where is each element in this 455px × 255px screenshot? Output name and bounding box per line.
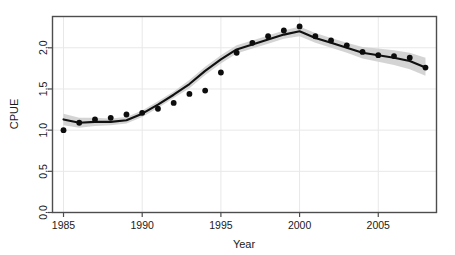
data-point: [155, 106, 161, 112]
data-point: [281, 28, 287, 34]
y-tick-label: 0,0: [37, 205, 49, 220]
figure-container: 19851990199520002005 0,00,51,01,52,0 Yea…: [0, 0, 455, 255]
cpue-time-series-chart: 19851990199520002005 0,00,51,01,52,0 Yea…: [0, 0, 455, 255]
data-point: [265, 33, 271, 39]
y-tick-label: 2,0: [37, 40, 49, 55]
data-point: [344, 42, 350, 48]
data-point: [249, 40, 255, 46]
data-point: [202, 88, 208, 94]
data-point: [407, 55, 413, 61]
chart-background: [0, 0, 455, 255]
x-tick-label: 1990: [131, 219, 155, 231]
data-point: [124, 112, 130, 118]
data-point: [139, 110, 145, 116]
data-point: [234, 50, 240, 56]
data-point: [297, 23, 303, 29]
data-point: [312, 33, 318, 39]
y-tick-label: 1,5: [37, 82, 49, 97]
data-point: [375, 52, 381, 58]
y-tick-label: 0,5: [37, 164, 49, 179]
data-point: [92, 117, 98, 123]
data-point: [423, 65, 429, 71]
y-axis-title: CPUE: [8, 99, 20, 130]
x-tick-label: 2005: [367, 219, 391, 231]
x-tick-label: 1995: [209, 219, 233, 231]
data-point: [360, 49, 366, 55]
data-point: [391, 53, 397, 59]
data-point: [218, 70, 224, 76]
y-tick-label: 1,0: [37, 123, 49, 138]
data-point: [328, 37, 334, 43]
data-point: [76, 120, 82, 126]
x-tick-label: 2000: [288, 219, 312, 231]
data-point: [108, 115, 114, 121]
x-tick-label: 1985: [52, 219, 76, 231]
data-point: [171, 100, 177, 106]
x-axis-title: Year: [233, 238, 256, 250]
data-point: [187, 91, 193, 97]
data-point: [61, 127, 67, 133]
